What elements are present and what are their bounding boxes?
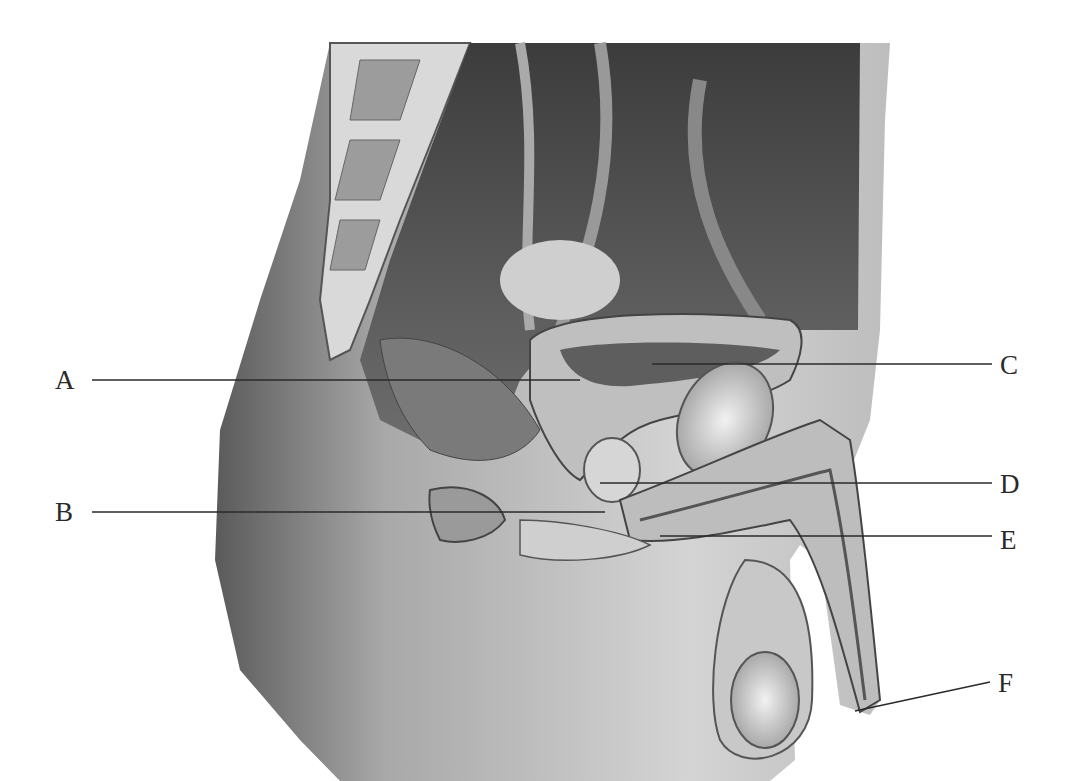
testis (731, 652, 799, 748)
label-c: C (1000, 352, 1018, 379)
label-d: D (1000, 471, 1020, 498)
label-e: E (1000, 527, 1017, 554)
illustration (0, 0, 1076, 781)
label-b: B (55, 499, 73, 526)
label-a: A (55, 367, 75, 394)
prostate (584, 438, 640, 502)
anatomy-figure: A B C D E F (0, 0, 1076, 781)
label-f: F (998, 670, 1013, 697)
